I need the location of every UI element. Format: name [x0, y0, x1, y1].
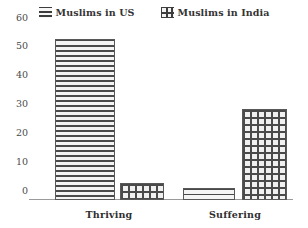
y-axis-tick-10: 10 [16, 157, 28, 167]
bar-thriving-muslims-in-india [120, 183, 164, 200]
chart-legend: Muslims in US Muslims in India [0, 7, 308, 18]
x-axis-category-label-thriving: Thriving [86, 209, 133, 220]
x-axis-category-label-suffering: Suffering [209, 209, 261, 220]
y-axis-tick-20: 20 [16, 128, 28, 138]
legend-entry-muslims-in-india: Muslims in India [161, 7, 270, 18]
y-axis-tick-50: 50 [16, 42, 28, 52]
bar-chart: Muslims in US Muslims in India 0 10 20 3… [0, 0, 308, 228]
bar-suffering-muslims-in-us [183, 188, 235, 200]
y-axis-tick-0: 0 [22, 186, 28, 196]
plot-area: 0 10 20 30 40 50 60 Thriving Suffering [37, 27, 293, 200]
y-axis-tick-60: 60 [16, 13, 28, 23]
legend-label-series-2: Muslims in India [178, 7, 270, 18]
legend-label-series-1: Muslims in US [56, 7, 135, 18]
bar-thriving-muslims-in-us [55, 39, 115, 200]
legend-swatch-horizontal-lines-icon [39, 7, 52, 18]
legend-entry-muslims-in-us: Muslims in US [39, 7, 135, 18]
bar-suffering-muslims-in-india [242, 109, 287, 200]
y-axis-tick-30: 30 [16, 99, 28, 109]
legend-swatch-crosshatch-grid-icon [161, 7, 174, 18]
y-axis-tick-40: 40 [16, 70, 28, 80]
